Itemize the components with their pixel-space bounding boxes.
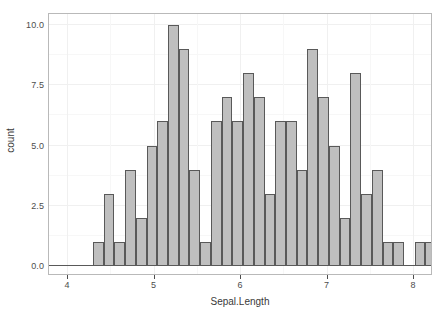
histogram-bar	[286, 121, 297, 266]
histogram-bar	[232, 121, 243, 266]
y-axis-title: count	[0, 0, 20, 280]
histogram-bar	[211, 121, 222, 266]
x-axis: 45678	[48, 275, 432, 297]
histogram-bar	[350, 73, 361, 266]
histogram-bar	[372, 170, 383, 266]
histogram-bar	[383, 242, 394, 266]
histogram-bar	[275, 121, 286, 266]
histogram-bar	[222, 97, 233, 266]
histogram-bar	[136, 218, 147, 266]
histogram-bar	[189, 170, 200, 266]
x-tick-label: 6	[225, 280, 255, 290]
x-tick-mark	[327, 275, 328, 279]
histogram-bar	[200, 242, 211, 266]
x-tick-label: 8	[398, 280, 428, 290]
histogram-bar	[147, 146, 158, 267]
histogram-bar	[361, 194, 372, 266]
y-tick-label: 5.0	[18, 141, 44, 151]
plot-panel	[48, 13, 432, 275]
histogram-bar	[93, 242, 104, 266]
y-tick-label: 0.0	[18, 261, 44, 271]
x-tick-mark	[240, 275, 241, 279]
histogram-bar	[157, 121, 168, 266]
y-tick-label: 10.0	[18, 20, 44, 30]
histogram-bar	[329, 146, 340, 267]
histogram-bar	[265, 194, 276, 266]
histogram-bar	[254, 97, 265, 266]
histogram-bar	[114, 242, 125, 266]
histogram-bar	[297, 170, 308, 266]
histogram-bars	[49, 14, 431, 274]
y-axis-tick-labels: 0.02.55.07.510.0	[18, 0, 44, 283]
histogram-bar	[340, 218, 351, 266]
histogram-bar	[307, 49, 318, 266]
x-axis-title: Sepal.Length	[48, 296, 432, 307]
histogram-bar	[168, 25, 179, 266]
histogram-bar	[415, 242, 426, 266]
histogram-plot: count 0.02.55.07.510.0 45678 Sepal.Lengt…	[0, 0, 444, 323]
x-tick-mark	[67, 275, 68, 279]
histogram-bar	[393, 242, 404, 266]
x-tick-mark	[154, 275, 155, 279]
x-tick-label: 4	[52, 280, 82, 290]
histogram-bar	[318, 97, 329, 266]
x-tick-label: 7	[312, 280, 342, 290]
x-tick-mark	[413, 275, 414, 279]
histogram-bar	[125, 170, 136, 266]
histogram-bar	[104, 194, 115, 266]
y-axis-title-label: count	[5, 128, 16, 152]
histogram-bar	[425, 242, 432, 266]
axis-baseline	[49, 265, 431, 266]
histogram-bar	[243, 73, 254, 266]
y-tick-label: 2.5	[18, 201, 44, 211]
histogram-bar	[179, 49, 190, 266]
x-tick-label: 5	[139, 280, 169, 290]
y-tick-label: 7.5	[18, 80, 44, 90]
